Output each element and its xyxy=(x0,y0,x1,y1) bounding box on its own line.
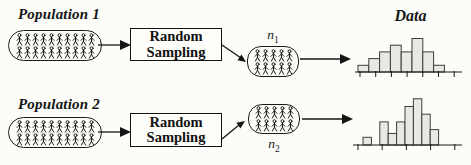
person-icon xyxy=(16,46,23,59)
person-icon xyxy=(48,33,55,46)
person-icon xyxy=(40,133,47,146)
person-icon xyxy=(56,33,63,46)
person-icon xyxy=(32,133,39,146)
person-icon xyxy=(80,33,87,46)
person-icon xyxy=(72,133,79,146)
random-sampling-box-1: Random Sampling xyxy=(130,28,222,61)
person-icon xyxy=(270,49,277,62)
histogram-bar xyxy=(434,65,445,72)
person-row xyxy=(16,33,95,46)
box-label-line-1: Random xyxy=(149,115,202,130)
population-2-label: Population 2 xyxy=(18,96,100,113)
person-icon xyxy=(271,106,278,119)
histogram-bar xyxy=(358,65,369,72)
person-icon xyxy=(88,33,95,46)
person-icon xyxy=(48,120,55,133)
histogram-bar xyxy=(401,52,412,72)
person-icon xyxy=(278,49,285,62)
person-icon xyxy=(255,119,262,132)
person-row xyxy=(255,106,294,119)
person-icon xyxy=(255,106,262,119)
box-label-line-1: Random xyxy=(149,29,202,44)
histogram-bar xyxy=(413,99,421,145)
sample-1-group xyxy=(247,46,299,77)
data-heading: Data xyxy=(350,7,471,25)
histogram-bar xyxy=(423,52,434,72)
person-icon xyxy=(32,46,39,59)
n-symbol: n xyxy=(267,27,274,42)
person-icon xyxy=(32,120,39,133)
population-1-label: Population 1 xyxy=(18,6,100,23)
person-icon xyxy=(271,119,278,132)
histogram-bar xyxy=(380,52,391,72)
arrow-right-icon xyxy=(98,125,132,139)
person-icon xyxy=(48,133,55,146)
sample-2-group xyxy=(248,104,300,134)
person-row xyxy=(255,119,294,132)
person-icon xyxy=(16,120,23,133)
person-row xyxy=(16,120,95,133)
person-icon xyxy=(286,62,293,75)
person-icon xyxy=(16,33,23,46)
n-symbol: n xyxy=(268,136,275,151)
n-subscript: 2 xyxy=(275,144,280,154)
person-icon xyxy=(32,33,39,46)
person-row xyxy=(16,46,95,59)
histogram-bar xyxy=(405,107,413,146)
person-icon xyxy=(40,33,47,46)
person-icon xyxy=(286,49,293,62)
person-icon xyxy=(72,120,79,133)
person-icon xyxy=(64,33,71,46)
person-icon xyxy=(56,133,63,146)
person-icon xyxy=(80,120,87,133)
person-icon xyxy=(262,62,269,75)
population-1-group xyxy=(8,30,102,61)
histogram-1 xyxy=(350,30,471,80)
person-icon xyxy=(72,46,79,59)
box-label-line-2: Sampling xyxy=(147,45,206,60)
sample-size-2-label: n2 xyxy=(248,136,300,152)
person-icon xyxy=(254,49,261,62)
histogram-bar xyxy=(397,122,405,145)
person-icon xyxy=(80,133,87,146)
person-icon xyxy=(24,33,31,46)
histogram-bar xyxy=(390,45,401,72)
person-icon xyxy=(40,46,47,59)
person-icon xyxy=(64,120,71,133)
arrow-right-icon xyxy=(302,112,354,126)
population-2-group xyxy=(8,117,102,148)
person-icon xyxy=(80,46,87,59)
arrow-right-icon xyxy=(300,52,352,66)
person-icon xyxy=(24,120,31,133)
arrow-up-right-icon xyxy=(219,115,249,143)
person-icon xyxy=(64,46,71,59)
person-row xyxy=(254,49,293,62)
person-icon xyxy=(262,49,269,62)
person-icon xyxy=(88,133,95,146)
person-icon xyxy=(287,106,294,119)
person-icon xyxy=(287,119,294,132)
person-icon xyxy=(16,133,23,146)
person-row xyxy=(254,62,293,75)
person-icon xyxy=(88,46,95,59)
histogram-2 xyxy=(350,96,471,154)
histogram-bar xyxy=(430,130,438,145)
person-icon xyxy=(263,119,270,132)
two-population-sampling-diagram: Population 1 Random Sampling n1 Data Pop… xyxy=(0,0,471,165)
arrow-down-right-icon xyxy=(220,42,250,68)
person-icon xyxy=(88,120,95,133)
person-icon xyxy=(254,62,261,75)
sample-size-1-label: n1 xyxy=(247,27,299,43)
random-sampling-box-2: Random Sampling xyxy=(130,113,222,147)
person-icon xyxy=(64,133,71,146)
histogram-bar xyxy=(388,133,396,145)
person-icon xyxy=(263,106,270,119)
person-icon xyxy=(279,119,286,132)
person-icon xyxy=(24,133,31,146)
histogram-bar xyxy=(363,137,371,145)
person-icon xyxy=(40,120,47,133)
histogram-bar xyxy=(422,114,430,145)
person-row xyxy=(16,133,95,146)
histogram-bar xyxy=(412,39,423,73)
person-icon xyxy=(279,106,286,119)
